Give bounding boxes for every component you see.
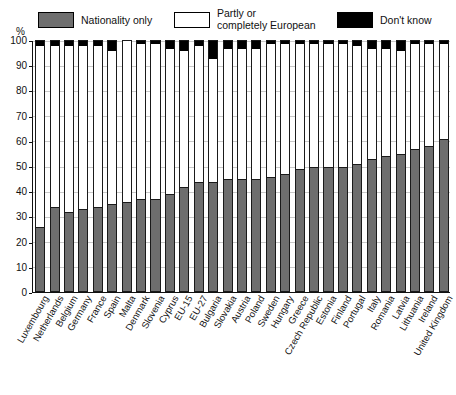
segment-nationality-only [51, 207, 59, 291]
bar-luxembourg [35, 40, 45, 292]
y-tick-label-30: 30 [16, 212, 27, 222]
y-tick-label-70: 70 [16, 112, 27, 122]
segment-partly-or-completely-european [411, 44, 419, 149]
segment-nationality-only [368, 159, 376, 291]
segment-dont-know [397, 41, 405, 51]
legend-label-nationality-only: Nationality only [81, 15, 152, 26]
segment-nationality-only [310, 167, 318, 291]
segment-nationality-only [339, 167, 347, 291]
bar-netherlands [50, 40, 60, 292]
segment-partly-or-completely-european [224, 49, 232, 180]
plot-area [32, 41, 450, 293]
segment-partly-or-completely-european [281, 44, 289, 175]
segment-dont-know [180, 41, 188, 51]
y-tick-label-100: 100 [10, 36, 27, 46]
segment-nationality-only [252, 179, 260, 291]
y-tick-label-90: 90 [16, 61, 27, 71]
segment-dont-know [382, 41, 390, 49]
bar-czech-republic [309, 40, 319, 292]
bar-portugal [352, 40, 362, 292]
legend-item-nationality-only: Nationality only [38, 12, 152, 28]
legend-item-dont-know: Don't know [337, 12, 432, 28]
bar-belgium [64, 40, 74, 292]
bar-france [93, 40, 103, 292]
segment-nationality-only [79, 209, 87, 291]
bar-spain [107, 40, 117, 292]
segment-partly-or-completely-european [382, 49, 390, 157]
segment-dont-know [252, 41, 260, 49]
segment-partly-or-completely-european [368, 49, 376, 159]
bar-romania [381, 40, 391, 292]
legend-label-partly-or-completely-european: Partly or completely European [217, 8, 316, 31]
segment-nationality-only [440, 139, 448, 291]
segment-nationality-only [425, 146, 433, 291]
legend-swatch-partly-or-completely-european [174, 12, 210, 28]
segment-nationality-only [36, 227, 44, 291]
segment-partly-or-completely-european [180, 51, 188, 187]
legend-swatch-nationality-only [38, 12, 74, 28]
y-tick-label-20: 20 [16, 238, 27, 248]
segment-dont-know [238, 41, 246, 49]
segment-nationality-only [137, 199, 145, 291]
segment-partly-or-completely-european [353, 46, 361, 164]
x-axis-labels: LuxembourgNetherlandsBelgiumGermanyFranc… [32, 294, 450, 395]
segment-partly-or-completely-european [238, 49, 246, 180]
segment-partly-or-completely-european [440, 44, 448, 139]
segment-nationality-only [324, 167, 332, 291]
chart-page: Nationality only Partly or completely Eu… [0, 0, 456, 395]
segment-nationality-only [151, 199, 159, 291]
bar-slovakia [223, 40, 233, 292]
bar-ireland [424, 40, 434, 292]
segment-partly-or-completely-european [324, 44, 332, 167]
segment-nationality-only [224, 179, 232, 291]
segment-nationality-only [296, 169, 304, 291]
segment-partly-or-completely-european [310, 44, 318, 167]
y-tick-label-50: 50 [16, 162, 27, 172]
segment-dont-know [224, 41, 232, 49]
segment-partly-or-completely-european [137, 44, 145, 200]
segment-dont-know [368, 41, 376, 49]
bar-sweden [266, 40, 276, 292]
bar-united-kingdom [439, 40, 449, 292]
bar-lithuania [410, 40, 420, 292]
segment-nationality-only [94, 207, 102, 291]
segment-nationality-only [281, 174, 289, 291]
segment-partly-or-completely-european [195, 46, 203, 182]
segment-partly-or-completely-european [123, 41, 131, 202]
segment-nationality-only [108, 204, 116, 291]
bar-finland [338, 40, 348, 292]
segment-partly-or-completely-european [339, 44, 347, 167]
bar-cyprus [165, 40, 175, 292]
segment-partly-or-completely-european [79, 46, 87, 209]
segment-nationality-only [267, 177, 275, 291]
segment-dont-know [209, 41, 217, 59]
segment-partly-or-completely-european [51, 46, 59, 207]
bar-germany [78, 40, 88, 292]
segment-partly-or-completely-european [209, 59, 217, 182]
bar-series-group [33, 41, 450, 292]
segment-partly-or-completely-european [108, 51, 116, 204]
bar-latvia [396, 40, 406, 292]
segment-nationality-only [123, 202, 131, 291]
y-tick-label-40: 40 [16, 187, 27, 197]
y-axis: 0102030405060708090100 [0, 41, 32, 293]
bar-italy [367, 40, 377, 292]
bar-bulgaria [208, 40, 218, 292]
bar-hungary [280, 40, 290, 292]
bar-greece [295, 40, 305, 292]
bar-slovenia [150, 40, 160, 292]
y-tick-label-10: 10 [16, 263, 27, 273]
segment-nationality-only [65, 212, 73, 291]
y-tick-label-80: 80 [16, 86, 27, 96]
bar-austria [237, 40, 247, 292]
segment-partly-or-completely-european [166, 49, 174, 195]
y-tick-label-60: 60 [16, 137, 27, 147]
segment-partly-or-completely-european [94, 46, 102, 207]
chart-legend: Nationality only Partly or completely Eu… [0, 8, 456, 34]
segment-partly-or-completely-european [296, 44, 304, 170]
segment-nationality-only [397, 154, 405, 291]
bar-eu-15 [179, 40, 189, 292]
segment-dont-know [108, 41, 116, 51]
bar-malta [122, 40, 132, 292]
y-tick-label-0: 0 [21, 288, 27, 298]
